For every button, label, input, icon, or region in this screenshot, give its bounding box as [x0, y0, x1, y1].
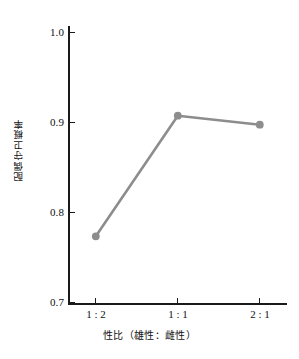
series-markers	[92, 112, 264, 240]
data-point-marker	[256, 121, 264, 129]
y-axis-tick-mark	[69, 302, 75, 303]
y-axis-tick-mark	[69, 32, 75, 33]
y-axis-tick-mark	[69, 122, 75, 123]
line-chart: 1.0 0.9 0.8 0.7 1 : 2 1 : 1 2 : 1 配偶守卫概率…	[0, 0, 299, 359]
y-axis-tick-label: 0.9	[40, 116, 64, 128]
x-axis-tick-label: 1 : 2	[86, 308, 106, 320]
x-axis-title: 性比（雄性：雌性）	[0, 327, 299, 342]
y-axis-title: 配偶守卫概率	[14, 118, 30, 181]
x-axis-tick-label: 1 : 1	[168, 308, 188, 320]
y-axis-tick-label: 1.0	[40, 26, 64, 38]
y-axis-line	[68, 26, 70, 304]
x-axis-tick-mark	[95, 298, 96, 304]
series-line	[96, 116, 260, 237]
data-point-marker	[92, 232, 100, 240]
y-axis-tick-label: 0.8	[40, 206, 64, 218]
y-axis-tick-label: 0.7	[40, 296, 64, 308]
x-axis-tick-mark	[177, 298, 178, 304]
x-axis-tick-mark	[259, 298, 260, 304]
x-axis-tick-label: 2 : 1	[250, 308, 270, 320]
data-point-marker	[174, 112, 182, 120]
y-axis-tick-mark	[69, 212, 75, 213]
